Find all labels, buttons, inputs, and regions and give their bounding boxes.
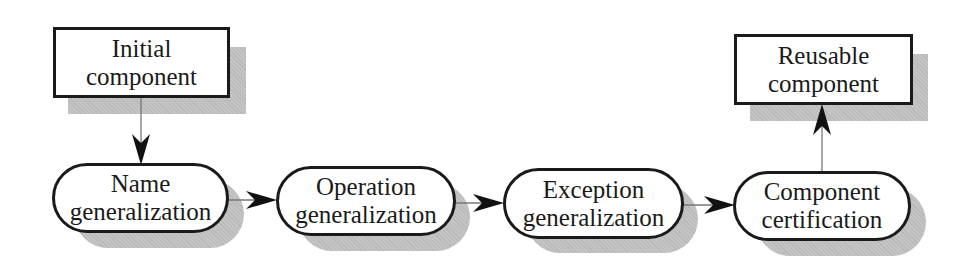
arrow-certification-to-reusable	[813, 104, 831, 171]
node-label-line1: Exception	[543, 176, 644, 204]
node-label-line2: component	[86, 63, 197, 91]
node-label-line2: generalization	[295, 201, 437, 229]
reusable-component-box: Reusable component	[734, 34, 913, 105]
node-label-line2: component	[768, 70, 879, 98]
arrow-exception-to-certification	[683, 196, 735, 214]
node-label-line2: certification	[762, 206, 883, 234]
node-label-line1: Name	[111, 170, 171, 198]
process-diagram: Initial component Reusable component Nam…	[0, 0, 964, 272]
name-generalization-node: Name generalization	[52, 163, 229, 233]
arrow-initial-to-name	[132, 97, 150, 165]
arrow-operation-to-exception	[455, 194, 504, 212]
node-label-line1: Initial	[112, 35, 172, 63]
exception-generalization-node: Exception generalization	[503, 168, 684, 239]
node-label-line1: Reusable	[778, 42, 870, 70]
node-label-line2: generalization	[70, 198, 212, 226]
node-label-line2: generalization	[523, 204, 665, 232]
arrow-name-to-operation	[228, 191, 277, 209]
node-label-line1: Component	[764, 178, 881, 206]
initial-component-box: Initial component	[53, 27, 230, 98]
node-label-line1: Operation	[316, 173, 416, 201]
operation-generalization-node: Operation generalization	[276, 166, 456, 236]
component-certification-node: Component certification	[733, 171, 911, 241]
